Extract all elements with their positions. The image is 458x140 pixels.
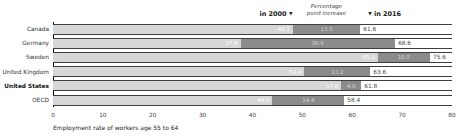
- x-axis-label: Employment rate of workers age 55 to 64: [53, 124, 178, 131]
- bar-2000: 48.1: [53, 25, 293, 34]
- value-increase: 4.0: [347, 83, 356, 89]
- x-tick-label: 0: [51, 112, 55, 118]
- bar-increase: 10.5: [378, 53, 430, 62]
- legend-percentage-point-increase: Percentage point increase: [307, 3, 346, 17]
- value-increase: 30.9: [311, 40, 323, 46]
- value-increase: 10.5: [398, 54, 410, 60]
- bar-rows: Canada48.113.561.6Germany37.630.968.6Swe…: [0, 22, 452, 107]
- value-increase: 14.4: [302, 97, 314, 103]
- bar-2000: 65.1: [53, 53, 378, 62]
- down-arrow-icon: ▼: [368, 11, 371, 16]
- x-tick-label: 60: [349, 112, 356, 118]
- bar-2000: 37.6: [53, 39, 241, 48]
- value-2000: 65.1: [362, 54, 374, 60]
- bar-increase: 13.5: [293, 25, 360, 34]
- x-axis: 01020304050607080: [53, 109, 452, 121]
- value-2016: 61.6: [363, 26, 376, 32]
- bar-track: 44.014.458.4: [53, 95, 452, 106]
- x-tick-label: 80: [448, 112, 455, 118]
- value-2016: 75.6: [433, 54, 446, 60]
- bar-row: Sweden65.110.575.6: [0, 50, 452, 64]
- x-tick-label: 50: [299, 112, 306, 118]
- down-arrow-icon: ▼: [289, 11, 292, 16]
- legend-in-2016: ▼ in 2016: [368, 10, 401, 18]
- legend-in-2016-label: in 2016: [374, 10, 401, 18]
- x-tick-label: 20: [149, 112, 156, 118]
- category-label: Canada: [0, 26, 53, 32]
- bar-2000: 50.4: [53, 67, 304, 76]
- legend-in-2000: in 2000 ▼: [53, 10, 292, 18]
- bar-2000: 44.0: [53, 96, 272, 105]
- bar-increase: 30.9: [241, 39, 395, 48]
- bar-track: 37.630.968.6: [53, 38, 452, 49]
- value-2000: 44.0: [257, 97, 269, 103]
- category-label: United Kingdom: [0, 69, 53, 75]
- x-tick-label: 40: [249, 112, 256, 118]
- value-2016: 63.6: [373, 69, 386, 75]
- legend-increase-line2: point increase: [307, 10, 346, 16]
- value-2000: 48.1: [278, 26, 290, 32]
- value-2000: 57.8: [326, 83, 338, 89]
- value-increase: 13.2: [331, 69, 343, 75]
- value-2016: 68.6: [398, 40, 411, 46]
- value-2000: 37.6: [225, 40, 237, 46]
- bar-2000: 57.8: [53, 81, 341, 90]
- x-tick-label: 70: [398, 112, 405, 118]
- bar-increase: 14.4: [272, 96, 344, 105]
- value-2000: 50.4: [289, 69, 301, 75]
- bar-increase: 4.0: [341, 81, 361, 90]
- category-label: Sweden: [0, 54, 53, 60]
- x-tick-label: 30: [199, 112, 206, 118]
- employment-rate-chart: in 2000 ▼ Percentage point increase ▼ in…: [0, 0, 458, 140]
- category-label: United States: [0, 83, 53, 89]
- value-increase: 13.5: [320, 26, 332, 32]
- bar-row: Germany37.630.968.6: [0, 36, 452, 50]
- bar-track: 48.113.561.6: [53, 24, 452, 35]
- bar-row: OECD44.014.458.4: [0, 93, 452, 107]
- legend-in-2000-label: in 2000: [259, 10, 286, 18]
- x-tick-label: 10: [99, 112, 106, 118]
- category-label: OECD: [0, 97, 53, 103]
- bar-track: 50.413.263.6: [53, 66, 452, 77]
- bar-row: United Kingdom50.413.263.6: [0, 65, 452, 79]
- bar-increase: 13.2: [304, 67, 370, 76]
- bar-track: 65.110.575.6: [53, 52, 452, 63]
- chart-legend: in 2000 ▼ Percentage point increase ▼ in…: [53, 2, 452, 22]
- bar-row: United States57.84.061.8: [0, 79, 452, 93]
- category-label: Germany: [0, 40, 53, 46]
- value-2016: 58.4: [347, 97, 360, 103]
- bar-track: 57.84.061.8: [53, 80, 452, 91]
- value-2016: 61.8: [364, 83, 377, 89]
- legend-increase-line1: Percentage: [311, 3, 342, 9]
- bar-row: Canada48.113.561.6: [0, 22, 452, 36]
